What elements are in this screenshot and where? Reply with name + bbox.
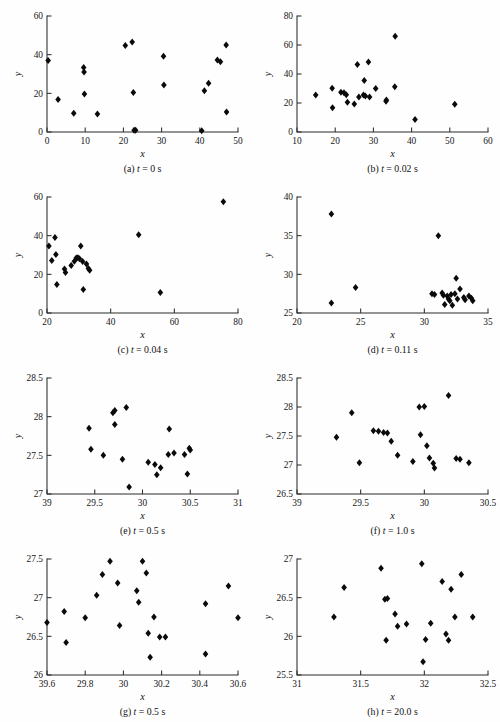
data-point [355,61,361,68]
data-point [452,101,458,108]
scatter-plot-d: 2025303525303540xy(d) t = 0.11 s [250,181,500,361]
data-point [115,579,121,586]
x-tick-label: 10 [81,136,91,146]
data-point [329,85,335,92]
x-axis-label: x [139,691,145,702]
data-point [117,622,123,629]
x-tick-label: 50 [233,136,243,146]
x-tick-label: 20 [119,136,129,146]
data-point [419,560,425,567]
x-tick-label: 30.5 [182,498,199,508]
data-point [165,451,171,458]
data-point [101,452,107,459]
data-point [371,427,377,434]
x-tick-label: 32.5 [480,679,497,689]
data-point [134,587,140,594]
data-point [329,299,335,306]
data-point [145,459,151,466]
x-axis-label: x [139,329,145,340]
x-axis-label: x [389,691,395,702]
data-point [439,578,445,585]
x-tick-label: 0 [45,136,50,146]
y-tick-label: 0 [288,127,293,137]
scatter-plot-h: 3131.53232.525.52626.527xy(h) t = 20.0 s [250,543,500,722]
data-point [44,619,50,626]
data-point [185,470,191,477]
data-point [203,651,209,658]
data-point [455,296,461,303]
panel-b: 102030405060020406080xy(b) t = 0.02 s [250,0,500,180]
y-tick-label: 28 [284,402,294,412]
data-point [52,234,58,241]
x-tick-label: 39 [292,498,302,508]
data-point [129,39,135,46]
y-axis-label: y [12,71,23,77]
data-point [356,93,362,100]
data-point [404,620,410,627]
data-point [171,450,177,457]
data-point [126,484,132,491]
panel-c: 204060800204060xy(c) t = 0.04 s [0,181,250,361]
panel-caption: (a) t = 0 s [124,163,162,175]
y-tick-label: 26 [284,632,294,642]
y-tick-label: 20 [34,89,44,99]
data-point [55,96,61,103]
panel-g: 39.629.83030.230.430.62626.52727.5xy(g) … [0,543,250,722]
data-point [378,565,384,572]
panel-caption: (f) t = 1.0 s [371,525,415,537]
y-tick-label: 28.5 [27,373,44,383]
x-tick-label: 31.5 [352,679,369,689]
scatter-plot-b: 102030405060020406080xy(b) t = 0.02 s [250,0,500,180]
data-point [385,430,391,437]
data-point [154,471,160,478]
data-point [341,584,347,591]
x-axis-label: x [389,329,395,340]
data-series [46,198,226,296]
x-tick-label: 39 [42,498,52,508]
data-point [100,571,106,578]
data-point [383,637,389,644]
x-axis-label: x [139,510,145,521]
data-point [392,33,398,40]
y-tick-label: 27.5 [27,451,44,461]
scatter-plot-c: 204060800204060xy(c) t = 0.04 s [0,181,250,361]
data-point [131,89,137,96]
data-point [361,77,367,84]
data-point [466,459,472,466]
panel-caption: (c) t = 0.04 s [118,344,168,356]
y-tick-label: 80 [284,11,294,21]
y-tick-label: 26 [34,670,44,680]
data-point [221,198,227,205]
data-point [392,610,398,617]
data-point [443,631,449,638]
panel-a: 010203040500204060xy(a) t = 0 s [0,0,250,180]
data-point [144,569,150,576]
data-point [235,614,241,621]
data-point [330,104,336,111]
data-point [452,290,458,297]
data-point [45,57,51,64]
data-point [329,211,335,218]
figure-sheet: 010203040500204060xy(a) t = 0 s 10203040… [0,0,500,722]
y-tick-label: 27 [34,593,44,603]
panel-caption: (e) t = 0.5 s [120,525,165,537]
y-tick-label: 40 [34,50,44,60]
x-tick-label: 30.6 [230,679,247,689]
x-tick-label: 80 [233,317,243,327]
data-series [313,33,458,123]
data-point [410,458,416,465]
data-point [86,425,92,432]
x-tick-label: 10 [292,136,302,146]
data-point [395,623,401,630]
x-tick-label: 30.4 [192,679,209,689]
data-point [140,558,146,565]
data-point [136,231,142,238]
data-point [452,614,458,621]
y-tick-label: 27 [34,489,44,499]
data-point [457,286,463,293]
data-point [82,614,88,621]
data-point [152,461,158,468]
x-tick-label: 30 [157,136,167,146]
data-point [107,558,113,565]
data-point [420,658,426,665]
